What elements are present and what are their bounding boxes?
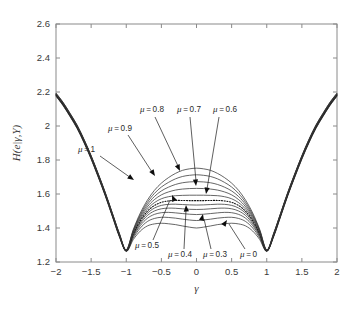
- x-tick-label-8: 2: [334, 266, 339, 277]
- annotation-label-mu-06: μ = 0.6: [212, 104, 237, 114]
- x-tick-label-4: 0: [194, 266, 199, 277]
- x-tick-label-6: 1: [264, 266, 269, 277]
- chart-figure: −2−1.5−1−0.500.511.52 1.21.41.61.822.22.…: [0, 0, 355, 312]
- annotation-label-mu-04: μ = 0.4: [167, 249, 192, 259]
- annotation-label-mu-08: μ = 0.8: [139, 104, 164, 114]
- annotation-label-mu-07: μ = 0.7: [176, 104, 201, 114]
- y-tick-label-4: 2: [45, 120, 50, 131]
- x-tick-label-3: −0.5: [152, 266, 171, 277]
- x-tick-label-7: 1.5: [295, 266, 308, 277]
- annotation-label-mu-03: μ = 0.3: [202, 249, 227, 259]
- annotation-label-mu-05: μ = 0.5: [134, 240, 159, 250]
- x-tick-label-0: −2: [51, 266, 62, 277]
- annotation-label-mu-1: μ = 1: [77, 144, 96, 154]
- x-axis-tick-labels: −2−1.5−1−0.500.511.52: [51, 266, 340, 277]
- y-tick-label-5: 2.2: [37, 86, 50, 97]
- y-tick-label-7: 2.6: [37, 18, 50, 29]
- x-tick-label-1: −1.5: [82, 266, 101, 277]
- y-tick-label-1: 1.4: [37, 222, 50, 233]
- y-tick-label-0: 1.2: [37, 256, 50, 267]
- figure-root: −2−1.5−1−0.500.511.52 1.21.41.61.822.22.…: [0, 0, 355, 312]
- x-axis-title: γ: [194, 282, 199, 294]
- annotation-label-mu-00: μ = 0: [239, 249, 258, 259]
- annotation-label-mu-09: μ = 0.9: [107, 123, 132, 133]
- x-tick-label-2: −1: [121, 266, 132, 277]
- y-axis-title: H(e|γ,Y): [10, 124, 23, 162]
- x-tick-label-5: 0.5: [225, 266, 238, 277]
- y-tick-label-3: 1.8: [37, 154, 50, 165]
- y-tick-label-6: 2.4: [37, 52, 50, 63]
- y-tick-label-2: 1.6: [37, 188, 50, 199]
- y-axis-title-group: H(e|γ,Y): [10, 124, 23, 162]
